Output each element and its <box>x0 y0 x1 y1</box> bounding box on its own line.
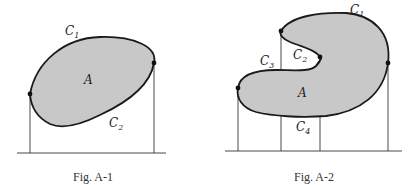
region-label-a1: A <box>83 73 93 87</box>
curve-label-c2-a1: C2 <box>109 116 123 132</box>
point-right-a1 <box>152 61 157 66</box>
point-1-a2 <box>279 29 284 34</box>
curve-label-c1-a2: C1 <box>350 3 364 19</box>
point-4-a2 <box>236 86 241 91</box>
point-2-a2 <box>318 55 323 60</box>
curve-label-c4-a2: C4 <box>296 120 310 136</box>
curve-label-c2-a2: C2 <box>293 48 307 64</box>
curve-label-c1-a1: C1 <box>65 24 79 40</box>
point-left-a1 <box>28 92 33 97</box>
figures-canvas: C1 A C2 Fig. A-1 C1 C2 C3 A C4 Fig. A-2 <box>0 0 418 185</box>
caption-a2: Fig. A-2 <box>294 170 334 184</box>
caption-a1: Fig. A-1 <box>73 170 113 184</box>
region-label-a2: A <box>297 86 307 100</box>
point-3-a2 <box>386 61 391 66</box>
figure-a2: C1 C2 C3 A C4 Fig. A-2 <box>225 3 402 184</box>
curve-label-c3-a2: C3 <box>260 54 274 70</box>
figure-a1: C1 A C2 Fig. A-1 <box>17 24 166 184</box>
